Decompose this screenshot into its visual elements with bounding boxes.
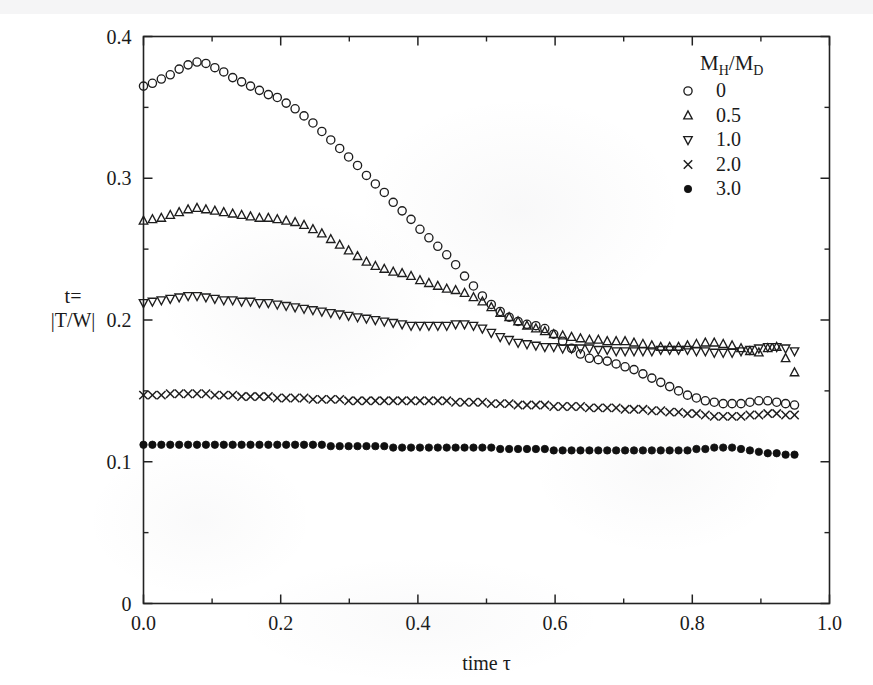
marker-triangle-up-open <box>273 215 281 223</box>
marker-triangle-down-open <box>514 339 522 347</box>
marker-triangle-down-open <box>532 342 540 350</box>
marker-triangle-up-open <box>451 286 459 294</box>
marker-circle-filled <box>372 442 379 449</box>
legend-entry: 2.0 <box>684 153 741 175</box>
marker-triangle-down-open <box>719 349 727 357</box>
marker-triangle-up-open <box>790 368 798 376</box>
y-tick-label: 0.3 <box>107 167 132 189</box>
marker-triangle-down-open <box>469 322 477 330</box>
marker-triangle-down-open <box>398 321 406 329</box>
marker-circle-filled <box>532 445 539 452</box>
y-tick-label: 0.1 <box>107 451 132 473</box>
marker-triangle-down-open <box>211 295 219 303</box>
marker-triangle-down-open <box>541 344 549 352</box>
y-tick-label: 0.4 <box>107 26 132 48</box>
marker-circle-open <box>345 153 353 161</box>
marker-circle-open <box>229 74 237 82</box>
data-series <box>139 58 798 409</box>
marker-circle-filled <box>711 444 718 451</box>
marker-triangle-up-open <box>300 220 308 228</box>
marker-circle-filled <box>746 447 753 454</box>
marker-circle-open <box>728 400 736 408</box>
marker-circle-open <box>389 198 397 206</box>
marker-triangle-down-open <box>327 310 335 318</box>
marker-triangle-up-open <box>710 338 718 346</box>
marker-circle-filled <box>193 441 200 448</box>
marker-circle-open <box>327 136 335 144</box>
marker-circle-filled <box>184 441 191 448</box>
marker-triangle-down-open <box>318 308 326 316</box>
marker-triangle-down-open <box>728 349 736 357</box>
marker-circle-open <box>407 215 415 223</box>
marker-triangle-up-open <box>701 338 709 346</box>
marker-triangle-down-open <box>228 297 236 305</box>
marker-circle-open <box>193 58 201 66</box>
marker-circle-open <box>282 99 290 107</box>
marker-triangle-down-open <box>407 322 415 330</box>
data-series <box>140 441 798 458</box>
marker-triangle-down-open <box>335 311 343 319</box>
marker-circle-filled <box>149 441 156 448</box>
marker-circle-filled <box>630 447 637 454</box>
marker-circle-open <box>781 400 789 408</box>
marker-circle-filled <box>229 441 236 448</box>
marker-triangle-up-open <box>407 271 415 279</box>
marker-circle-filled <box>586 447 593 454</box>
legend-entry: 0 <box>684 79 726 101</box>
marker-circle-open <box>630 366 638 374</box>
marker-triangle-up-open <box>264 213 272 221</box>
marker-triangle-up-open <box>362 257 370 265</box>
marker-triangle-down-open <box>344 312 352 320</box>
marker-circle-filled <box>782 451 789 458</box>
marker-triangle-up-open <box>416 276 424 284</box>
marker-circle-filled <box>336 442 343 449</box>
marker-circle-filled <box>621 447 628 454</box>
marker-circle-filled <box>550 447 557 454</box>
marker-circle-filled <box>684 447 691 454</box>
marker-circle-filled <box>461 444 468 451</box>
marker-triangle-up-open <box>327 235 335 243</box>
marker-circle-filled <box>345 442 352 449</box>
marker-triangle-down-open <box>371 317 379 325</box>
marker-triangle-up-open <box>728 341 736 349</box>
marker-circle-filled <box>719 444 726 451</box>
marker-circle-filled <box>354 442 361 449</box>
marker-circle-filled <box>140 441 147 448</box>
marker-triangle-up-open <box>576 334 584 342</box>
legend-entry-label: 0.5 <box>716 104 741 126</box>
marker-circle-filled <box>416 444 423 451</box>
marker-triangle-up-open <box>594 335 602 343</box>
marker-circle-open <box>460 272 468 280</box>
marker-circle-open <box>237 78 245 86</box>
marker-triangle-down-open <box>451 321 459 329</box>
marker-triangle-up-open <box>380 264 388 272</box>
x-axis-label: time τ <box>462 652 511 674</box>
marker-circle-open <box>594 356 602 364</box>
marker-triangle-down-open <box>255 300 263 308</box>
marker-circle-filled <box>488 444 495 451</box>
y-tick-label: 0 <box>122 593 132 615</box>
data-series-group <box>139 58 798 458</box>
marker-triangle-up-open <box>398 269 406 277</box>
marker-circle-filled <box>479 444 486 451</box>
marker-circle-filled <box>309 441 316 448</box>
marker-triangle-up-open <box>175 208 183 216</box>
marker-circle-open <box>603 357 611 365</box>
marker-circle-open <box>737 400 745 408</box>
marker-circle-open <box>710 398 718 406</box>
marker-circle-filled <box>452 444 459 451</box>
marker-triangle-up-open <box>335 240 343 248</box>
marker-triangle-down-open <box>416 322 424 330</box>
marker-triangle-down-open <box>639 348 647 356</box>
marker-circle-filled <box>158 441 165 448</box>
marker-circle-open <box>683 391 691 399</box>
marker-circle-filled <box>425 444 432 451</box>
marker-circle-filled <box>390 444 397 451</box>
marker-triangle-down-open <box>434 322 442 330</box>
marker-circle-open <box>648 374 656 382</box>
marker-circle-filled <box>202 441 209 448</box>
marker-circle-open <box>148 79 156 87</box>
marker-triangle-up-open <box>621 337 629 345</box>
marker-triangle-down-open <box>175 294 183 302</box>
marker-circle-open <box>291 105 299 113</box>
